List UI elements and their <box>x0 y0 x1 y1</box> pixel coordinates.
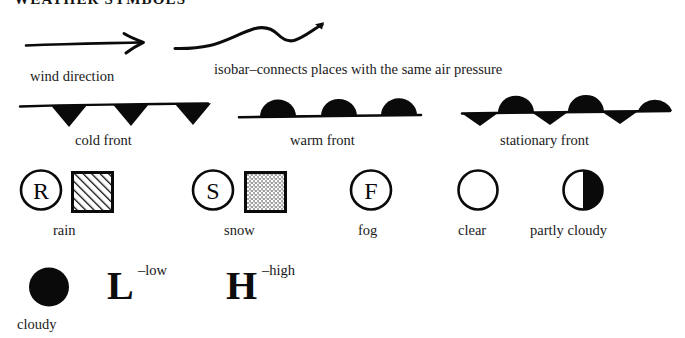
isobar-curve <box>172 18 337 54</box>
fog-label: fog <box>358 222 377 239</box>
svg-text:S: S <box>206 178 219 204</box>
high-pressure-annotation: –high <box>262 262 295 279</box>
clear-label: clear <box>458 222 486 239</box>
partly-cloudy-label: partly cloudy <box>530 222 607 239</box>
rain-label: rain <box>53 222 76 239</box>
wind-direction-arrow <box>24 28 154 58</box>
cold-front-label: cold front <box>75 132 132 149</box>
empty-circle-icon <box>455 167 501 213</box>
partly-cloudy-symbol <box>560 167 606 213</box>
circled-letter-r-icon: R <box>18 167 64 213</box>
cold-front-symbol <box>18 95 218 129</box>
isobar-label: isobar–connects places with the same air… <box>214 61 502 78</box>
weather-symbols-diagram: WEATHER SYMBOLS wind direction isobar–co… <box>0 0 685 338</box>
snow-swatch <box>243 170 288 214</box>
low-pressure-letter: L <box>107 266 134 306</box>
low-pressure-annotation: –low <box>138 262 167 279</box>
svg-text:R: R <box>33 178 49 204</box>
svg-text:F: F <box>364 178 377 204</box>
stationary-front-symbol <box>460 90 675 128</box>
high-pressure-letter: H <box>226 266 257 306</box>
hatched-square-icon <box>70 170 115 214</box>
wind-direction-label: wind direction <box>30 68 114 85</box>
snow-circle-symbol: S <box>190 167 236 213</box>
fog-circle-symbol: F <box>348 167 394 213</box>
rain-circle-symbol: R <box>18 167 64 213</box>
arrow-right-icon <box>24 28 154 58</box>
half-filled-circle-icon <box>560 167 606 213</box>
stationary-front-label: stationary front <box>500 132 589 149</box>
warm-front-icon <box>237 93 427 127</box>
page-title: WEATHER SYMBOLS <box>14 0 186 8</box>
snow-label: snow <box>224 222 255 239</box>
clear-circle-symbol <box>455 167 501 213</box>
cloudy-label: cloudy <box>17 316 56 333</box>
stippled-square-icon <box>243 170 288 214</box>
circled-letter-s-icon: S <box>190 167 236 213</box>
cold-front-icon <box>18 95 218 129</box>
stationary-front-icon <box>460 90 675 128</box>
filled-circle-icon <box>26 264 72 310</box>
rain-swatch <box>70 170 115 214</box>
cloudy-symbol <box>26 264 72 310</box>
warm-front-symbol <box>237 93 427 127</box>
wavy-line-icon <box>172 18 337 54</box>
circled-letter-f-icon: F <box>348 167 394 213</box>
warm-front-label: warm front <box>290 132 355 149</box>
